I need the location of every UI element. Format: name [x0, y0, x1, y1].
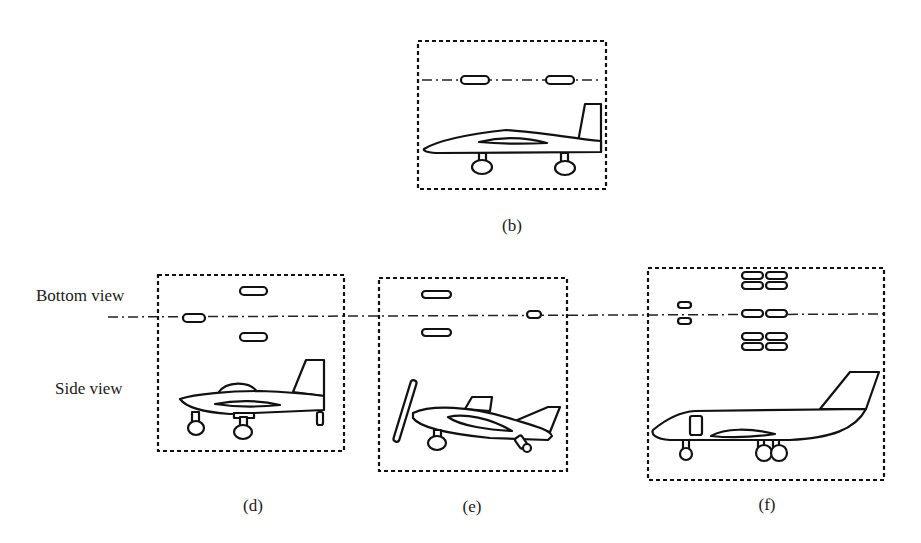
wheel-footprint — [240, 287, 267, 295]
caption-f: (f) — [759, 495, 776, 515]
wheel-footprint — [527, 311, 541, 318]
wheel-footprint — [422, 291, 451, 298]
wheel-footprint — [183, 314, 205, 322]
wheel-footprint — [461, 76, 489, 84]
wheel-footprint — [422, 329, 451, 336]
landing-gear-configuration-diagram: .box { fill: none; stroke: #111; stroke-… — [0, 0, 921, 543]
wheel-footprint — [546, 76, 574, 84]
bottom-view-label: Bottom view — [36, 286, 124, 306]
panel-f — [648, 268, 884, 480]
propeller — [393, 380, 417, 443]
aircraft-b-side — [424, 104, 601, 175]
caption-d: (d) — [243, 496, 263, 516]
nose-gear-footprints — [678, 302, 691, 324]
panel-e — [379, 278, 567, 471]
wheel-footprint — [240, 333, 267, 341]
main-gear-bogie-footprints — [742, 272, 787, 350]
caption-b: (b) — [502, 216, 522, 236]
caption-e: (e) — [463, 497, 482, 517]
aircraft-f-side — [653, 372, 879, 461]
panel-d — [158, 275, 344, 451]
door — [690, 416, 702, 435]
panel-b-frame — [418, 41, 606, 189]
aircraft-e-side — [393, 380, 560, 452]
aircraft-d-side — [180, 360, 324, 439]
panel-e-frame — [379, 278, 567, 471]
side-view-label: Side view — [55, 379, 123, 399]
panel-b — [418, 41, 606, 189]
